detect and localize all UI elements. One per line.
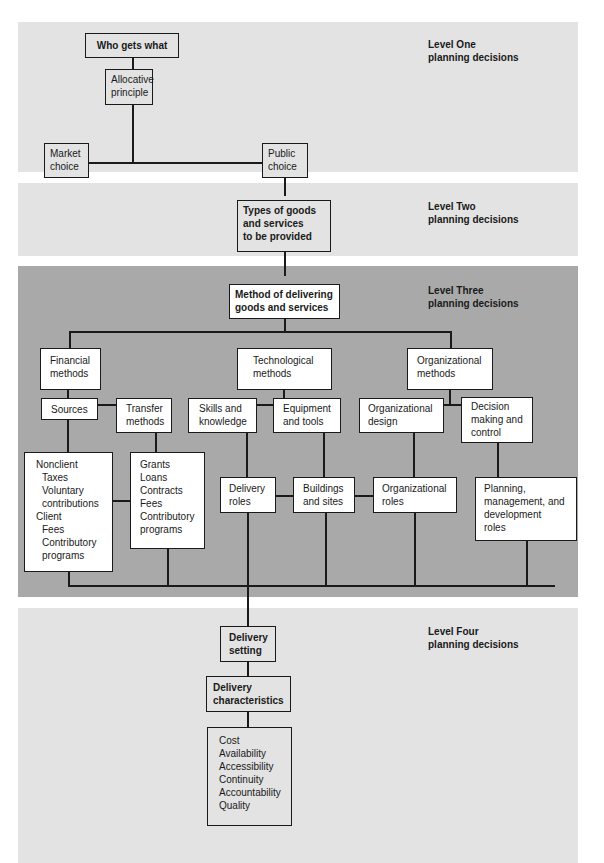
method-of-delivering-box: Method of delivering goods and services xyxy=(229,284,340,319)
transfer-methods-box: Transfer methods xyxy=(116,398,172,433)
delivery-characteristics-box: Delivery characteristics xyxy=(206,676,291,712)
box-line: methods xyxy=(253,367,316,380)
box-line: and services xyxy=(243,217,325,230)
box-line: Types of goods xyxy=(243,204,325,217)
sources-list-box: Nonclient Taxes Voluntary contributions … xyxy=(24,452,113,572)
connector xyxy=(132,105,134,162)
connector xyxy=(69,331,71,349)
box-line: Delivery xyxy=(213,681,284,694)
box-line: Delivery xyxy=(229,482,267,495)
level-one-subtitle: planning decisions xyxy=(428,51,519,64)
connector xyxy=(167,548,169,586)
level-three-subtitle: planning decisions xyxy=(428,297,519,310)
connector xyxy=(413,432,415,478)
box-line: goods and services xyxy=(235,301,334,314)
list-item: programs xyxy=(36,549,101,562)
connector xyxy=(67,418,69,454)
connector xyxy=(325,512,327,586)
connector xyxy=(284,318,286,332)
level-two-subtitle: planning decisions xyxy=(428,213,519,226)
box-line: methods xyxy=(50,367,91,380)
skills-knowledge-box: Skills and knowledge xyxy=(188,398,257,433)
level-one-title: Level One xyxy=(428,38,519,51)
connector xyxy=(526,540,528,586)
technological-methods-box: Technological methods xyxy=(237,348,332,390)
box-line: design xyxy=(368,415,435,428)
level-three-label: Level Three planning decisions xyxy=(428,284,519,310)
box-line: roles xyxy=(484,521,568,534)
box-line: Skills and xyxy=(199,402,246,415)
box-line: control xyxy=(471,426,523,439)
connector xyxy=(354,495,374,497)
box-line: and sites xyxy=(303,495,345,508)
box-line: Sources xyxy=(51,403,88,416)
delivery-roles-box: Delivery roles xyxy=(220,477,276,513)
connector xyxy=(247,512,249,627)
box-line: Organizational xyxy=(417,354,483,367)
box-line: Organizational xyxy=(368,402,435,415)
level-four-label: Level Four planning decisions xyxy=(428,625,519,651)
box-line: Allocative xyxy=(111,73,147,86)
box-line: setting xyxy=(229,644,267,657)
who-gets-what-box: Who gets what xyxy=(85,33,179,58)
organizational-roles-box: Organizational roles xyxy=(373,477,457,513)
list-item: programs xyxy=(140,523,195,536)
list-heading: Nonclient xyxy=(36,458,101,471)
list-item: Voluntary xyxy=(36,484,101,497)
box-line: Method of delivering xyxy=(235,288,334,301)
list-item: Continuity xyxy=(219,773,280,786)
box-line: principle xyxy=(111,86,147,99)
level-four-subtitle: planning decisions xyxy=(428,638,519,651)
connector xyxy=(112,500,132,502)
list-item: Contributory xyxy=(140,510,195,523)
sources-box: Sources xyxy=(41,398,98,420)
list-item: Availability xyxy=(219,747,280,760)
connector xyxy=(68,585,555,587)
box-line: management, and xyxy=(484,495,568,508)
connector xyxy=(276,495,294,497)
list-item: Cost xyxy=(219,734,280,747)
connector xyxy=(155,432,157,454)
box-line: knowledge xyxy=(199,415,246,428)
public-choice-box: Public choice xyxy=(262,143,308,178)
box-line: methods xyxy=(126,415,162,428)
box-line: Planning, xyxy=(484,482,568,495)
list-item: Fees xyxy=(140,497,195,510)
allocative-principle-box: Allocative principle xyxy=(105,69,153,105)
list-item: Loans xyxy=(140,471,195,484)
box-line: choice xyxy=(268,160,302,173)
connector xyxy=(88,162,264,164)
box-line: Organizational xyxy=(382,482,448,495)
equipment-tools-box: Equipment and tools xyxy=(273,398,341,433)
list-item: Contributory xyxy=(36,536,101,549)
level-two-title: Level Two xyxy=(428,200,519,213)
organizational-design-box: Organizational design xyxy=(359,398,444,433)
list-item: Quality xyxy=(219,799,280,812)
level-three-title: Level Three xyxy=(428,284,519,297)
box-line: Delivery xyxy=(229,631,267,644)
decision-making-box: Decision making and control xyxy=(461,397,533,443)
list-item: Contracts xyxy=(140,484,195,497)
transfer-list-box: Grants Loans Contracts Fees Contributory… xyxy=(130,452,205,549)
box-line: Financial xyxy=(50,354,91,367)
list-item: contributions xyxy=(36,497,101,510)
list-item: Accountability xyxy=(219,786,280,799)
box-line: development xyxy=(484,508,568,521)
box-line: roles xyxy=(382,495,448,508)
list-item: Grants xyxy=(140,458,195,471)
box-line: Equipment xyxy=(283,402,331,415)
connector xyxy=(69,331,451,333)
connector xyxy=(68,571,70,586)
list-item: Fees xyxy=(36,523,101,536)
connector xyxy=(323,432,325,478)
box-line: choice xyxy=(50,160,83,173)
box-line: methods xyxy=(417,367,483,380)
level-one-label: Level One planning decisions xyxy=(428,38,519,64)
types-of-goods-box: Types of goods and services to be provid… xyxy=(237,200,331,252)
organizational-methods-box: Organizational methods xyxy=(407,348,493,390)
characteristics-list-box: Cost Availability Accessibility Continui… xyxy=(207,727,292,826)
box-line: to be provided xyxy=(243,230,325,243)
box-line: Market xyxy=(50,147,83,160)
connector xyxy=(449,389,451,405)
list-item: Taxes xyxy=(36,471,101,484)
